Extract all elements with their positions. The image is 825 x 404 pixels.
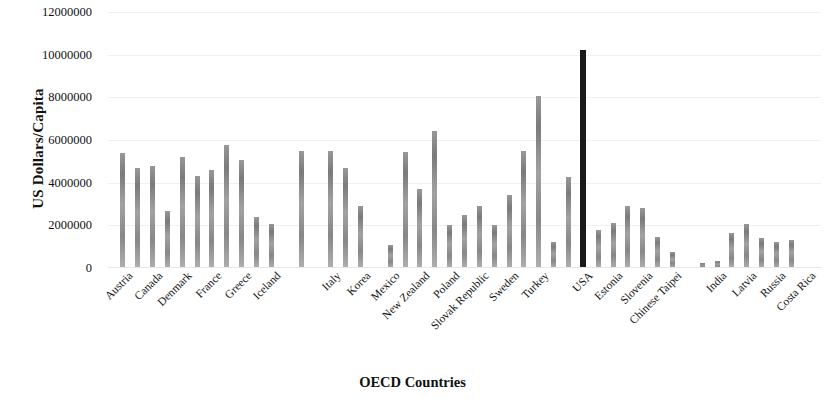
plot-area [108,12,821,268]
bar [655,237,660,268]
y-axis-tick: 0 [0,262,92,275]
x-axis-tick-label: Latvia [730,270,759,299]
bar [417,189,422,268]
x-axis-tick: India [704,270,729,295]
gridline [108,140,821,141]
bar [209,170,214,268]
bar [507,195,512,268]
x-axis-tick-label: Austria [103,270,135,302]
gridline [108,12,821,13]
bar [596,230,601,268]
x-axis-tick-label: Iceland [251,270,283,302]
bar [358,206,363,268]
x-axis-tick: France [194,270,224,300]
bar [670,252,675,268]
bar [343,168,348,268]
x-axis-tick-label: USA [571,270,595,294]
bar [254,217,259,268]
gridline [108,55,821,56]
bar [744,224,749,268]
bar [774,242,779,268]
y-axis-tick: 12000000 [0,6,92,19]
bar-chart: US Dollars/Capita 1200000010000000800000… [0,0,825,404]
x-axis-tick: Sweden [487,270,521,304]
y-axis-tick: 6000000 [0,134,92,147]
x-axis-tick: Austria [103,270,135,302]
bar [432,131,437,268]
bar [640,208,645,268]
bar [611,223,616,268]
bar [150,166,155,268]
bar [536,96,541,268]
x-axis-title: OECD Countries [0,374,825,391]
x-axis-tick: Iceland [251,270,283,302]
x-axis-tick-label: Sweden [487,270,521,304]
bar [269,224,274,268]
bar [195,176,200,268]
bar [789,240,794,268]
x-axis-tick-label: Turkey [520,270,551,301]
bar [180,157,185,268]
bar [477,206,482,268]
y-axis-tick: 4000000 [0,176,92,189]
bar [299,151,304,268]
x-axis-tick: Italy [320,270,343,293]
x-axis-tick: Greece [223,270,254,301]
x-axis-tick: Latvia [730,270,759,299]
bar [551,242,556,268]
bar [566,177,571,268]
bar [135,168,140,268]
y-axis-tick: 8000000 [0,91,92,104]
gridline [108,97,821,98]
bar [165,211,170,268]
x-axis-tick-label: India [704,270,729,295]
bar [625,206,630,268]
bar [729,233,734,268]
x-axis-tick-label: Italy [320,270,343,293]
bar [462,215,467,268]
bar [759,238,764,268]
bar [388,245,393,268]
bar [239,160,244,268]
x-axis-tick-label: France [194,270,224,300]
x-axis-tick-label: Greece [223,270,254,301]
bar [328,151,333,268]
gridline [108,183,821,184]
y-axis-tick-labels: 1200000010000000800000060000004000000200… [0,12,100,268]
bar [447,225,452,268]
x-axis-tick-labels: AustriaCanadaDenmarkFranceGreeceIcelandI… [108,270,821,365]
bar [492,225,497,268]
bar [521,151,526,268]
y-axis-tick: 10000000 [0,48,92,61]
bar [403,152,408,268]
bar [120,153,125,268]
x-axis-tick: Turkey [520,270,551,301]
bar-highlight [580,50,586,268]
y-axis-tick: 2000000 [0,219,92,232]
x-axis-baseline [108,267,821,268]
bar [224,145,229,268]
x-axis-tick: USA [571,270,595,294]
